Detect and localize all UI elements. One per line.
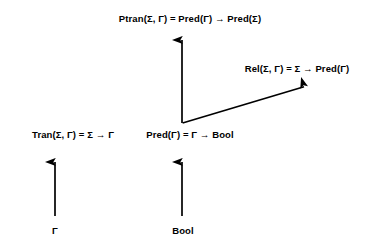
rel-definition-label: Rel(Σ, Γ) = Σ → Pred(Γ) bbox=[245, 64, 350, 74]
gamma-base-label: Γ bbox=[52, 226, 58, 236]
arrow-layer bbox=[0, 0, 376, 251]
bool-base-label: Bool bbox=[172, 226, 194, 236]
pred-to-rel-arrow bbox=[183, 87, 304, 123]
pred-definition-label: Pred(Γ) = Γ → Bool bbox=[146, 130, 233, 140]
ptran-definition-label: Ptran(Σ, Γ) = Pred(Γ) → Pred(Σ) bbox=[119, 14, 261, 24]
tran-definition-label: Tran(Σ, Γ) = Σ → Γ bbox=[32, 130, 114, 140]
diagram-canvas: Ptran(Σ, Γ) = Pred(Γ) → Pred(Σ) Rel(Σ, Γ… bbox=[0, 0, 376, 251]
